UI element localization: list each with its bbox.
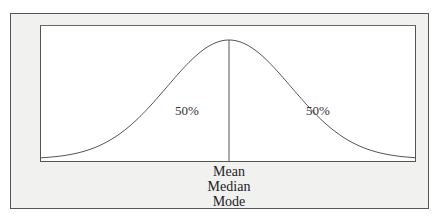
- mean-label: Mean: [213, 164, 245, 179]
- mode-label: Mode: [213, 194, 246, 209]
- left-area-label: 50%: [175, 103, 199, 119]
- right-area-label: 50%: [306, 103, 330, 119]
- median-label: Median: [208, 179, 251, 194]
